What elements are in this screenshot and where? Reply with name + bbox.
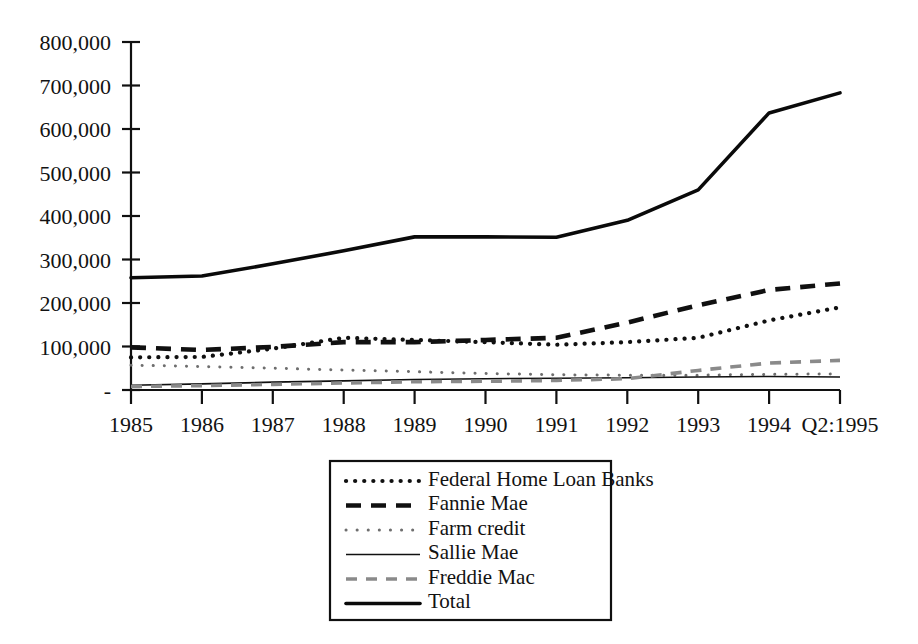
y-axis-tick-label: - [104, 378, 111, 403]
x-axis-tick-label: 1990 [464, 412, 508, 437]
x-axis-tick-label: 1988 [322, 412, 366, 437]
legend-entry-label: Federal Home Loan Banks [428, 467, 654, 491]
series-lines [131, 93, 840, 387]
x-axis-tick-label: 1986 [180, 412, 224, 437]
legend-entry-label: Freddie Mac [428, 565, 535, 589]
legend-entry-label: Sallie Mae [428, 540, 518, 564]
x-axis-tick-label: Q2:1995 [802, 412, 879, 437]
x-axis-tick-label: 1994 [747, 412, 791, 437]
chart-container: -100,000200,000300,000400,000500,000600,… [0, 0, 918, 644]
line-chart: -100,000200,000300,000400,000500,000600,… [0, 0, 918, 644]
y-axis: -100,000200,000300,000400,000500,000600,… [40, 30, 141, 403]
y-axis-tick-label: 300,000 [40, 248, 112, 273]
y-axis-tick-label: 700,000 [40, 74, 112, 99]
y-axis-tick-label: 400,000 [40, 204, 112, 229]
x-axis-tick-label: 1991 [534, 412, 578, 437]
legend-entry-label: Fannie Mae [428, 491, 528, 515]
y-axis-tick-label: 600,000 [40, 117, 112, 142]
series-line [131, 93, 840, 278]
x-axis-tick-label: 1992 [605, 412, 649, 437]
chart-legend: Federal Home Loan BanksFannie MaeFarm cr… [330, 461, 654, 620]
x-axis: 1985198619871988198919901991199219931994… [109, 390, 879, 437]
legend-entry-label: Farm credit [428, 516, 526, 540]
y-axis-tick-label: 200,000 [40, 291, 112, 316]
y-axis-tick-label: 500,000 [40, 161, 112, 186]
x-axis-tick-label: 1985 [109, 412, 153, 437]
x-axis-tick-label: 1989 [393, 412, 437, 437]
x-axis-tick-label: 1987 [251, 412, 295, 437]
series-line [131, 283, 840, 350]
y-axis-tick-label: 800,000 [40, 30, 112, 55]
x-axis-tick-label: 1993 [676, 412, 720, 437]
y-axis-tick-label: 100,000 [40, 335, 112, 360]
legend-entry-label: Total [428, 589, 471, 613]
